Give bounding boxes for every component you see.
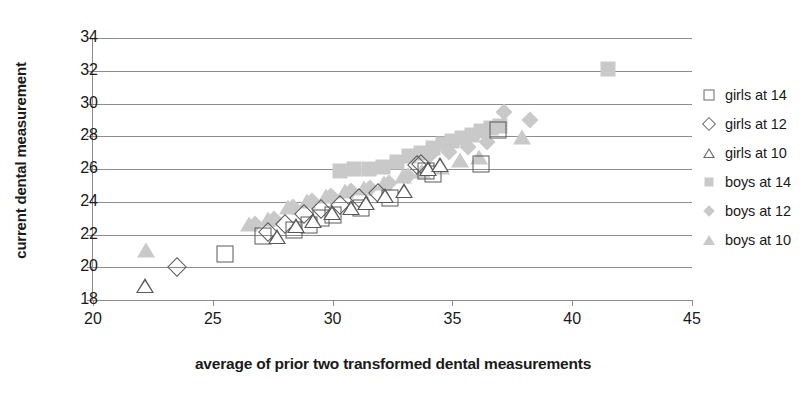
legend-label: boys at 14 (725, 174, 791, 190)
data-point (268, 220, 286, 235)
data-point (390, 155, 405, 170)
x-axis-tick (333, 300, 334, 306)
data-point (370, 188, 382, 200)
data-point (601, 62, 616, 77)
data-point (473, 156, 490, 173)
gridline (93, 267, 692, 268)
scatter-chart: current dental measurement 202530354045 … (0, 0, 802, 395)
legend-item[interactable]: boys at 10 (700, 225, 800, 254)
plot-area: 202530354045 (93, 38, 692, 300)
data-point (249, 225, 267, 240)
x-axis-tick-label: 30 (308, 310, 358, 328)
y-axis-tick-label: 20 (58, 257, 98, 275)
gridline (93, 71, 692, 72)
x-axis-tick-label: 20 (68, 310, 118, 328)
y-axis-tick-label: 34 (58, 28, 98, 46)
data-point (426, 140, 441, 155)
y-axis-tick-label: 26 (58, 159, 98, 177)
y-axis-tick-label: 22 (58, 225, 98, 243)
data-point (288, 209, 306, 224)
legend-label: girls at 10 (725, 145, 787, 161)
data-point (285, 224, 299, 238)
legend-label: boys at 10 (725, 232, 791, 248)
data-point (307, 202, 325, 217)
data-point (304, 214, 318, 228)
data-point (504, 112, 516, 124)
data-point (384, 184, 402, 199)
x-axis-title: average of prior two transformed dental … (93, 355, 693, 373)
data-point (216, 246, 233, 263)
data-point (417, 165, 431, 179)
data-point (345, 193, 363, 208)
y-axis-tick-label: 28 (58, 126, 98, 144)
gridline (93, 169, 692, 170)
data-point (421, 164, 435, 178)
data-point (493, 119, 508, 134)
legend-item[interactable]: girls at 14 (700, 80, 800, 109)
data-point (422, 173, 440, 188)
legend-marker-icon (700, 173, 718, 191)
data-point (177, 267, 191, 281)
gridline (93, 300, 692, 301)
gridline (93, 235, 692, 236)
data-point (522, 139, 540, 154)
y-axis-title-text: current dental measurement (12, 62, 29, 259)
x-axis-tick (452, 300, 453, 306)
data-point (402, 148, 417, 163)
data-point (435, 137, 450, 152)
y-axis-tick-label: 32 (58, 61, 98, 79)
x-axis-tick (692, 300, 693, 306)
data-point (479, 158, 497, 173)
data-point (449, 152, 461, 164)
data-point (483, 121, 498, 136)
x-axis-tick-label: 40 (547, 310, 597, 328)
y-axis-tick-label: 18 (58, 290, 98, 308)
data-point (530, 120, 542, 132)
data-point (359, 198, 373, 212)
data-point (321, 209, 335, 223)
data-point (382, 190, 399, 207)
data-point (389, 183, 401, 195)
data-point (340, 205, 354, 219)
data-point (293, 207, 305, 219)
y-axis-tick-label: 30 (58, 94, 98, 112)
legend-item[interactable]: girls at 10 (700, 138, 800, 167)
x-axis-tick (572, 300, 573, 306)
data-point (326, 198, 344, 213)
data-point (312, 210, 329, 227)
data-point (255, 228, 272, 245)
gridline (93, 104, 692, 105)
legend-marker-icon (700, 115, 718, 133)
data-point (146, 252, 164, 267)
data-point (464, 127, 479, 142)
data-point (487, 142, 499, 154)
legend-item[interactable]: boys at 12 (700, 196, 800, 225)
legend-label: boys at 12 (725, 203, 791, 219)
legend-marker-icon (700, 231, 718, 249)
legend-item[interactable]: boys at 14 (700, 167, 800, 196)
gridline (93, 136, 692, 137)
legend-label: girls at 14 (725, 87, 787, 103)
x-axis-tick-label: 45 (667, 310, 717, 328)
data-point (332, 163, 347, 178)
data-point (274, 219, 286, 231)
x-axis-tick-label: 35 (427, 310, 477, 328)
gridline (93, 38, 692, 39)
data-point (375, 160, 390, 175)
data-point (300, 216, 317, 233)
data-point (441, 168, 459, 183)
legend: girls at 14girls at 12girls at 10boys at… (700, 80, 800, 254)
data-point (408, 176, 420, 188)
data-point (414, 145, 429, 160)
x-axis-tick (213, 300, 214, 306)
x-axis-tick-label: 25 (188, 310, 238, 328)
y-axis-title: current dental measurement (6, 10, 34, 310)
data-point (468, 147, 480, 159)
y-axis-tick-label: 24 (58, 192, 98, 210)
data-point (378, 193, 392, 207)
data-point (430, 155, 442, 167)
legend-marker-icon (700, 202, 718, 220)
data-point (324, 206, 341, 223)
legend-marker-icon (700, 144, 718, 162)
legend-item[interactable]: girls at 12 (700, 109, 800, 138)
